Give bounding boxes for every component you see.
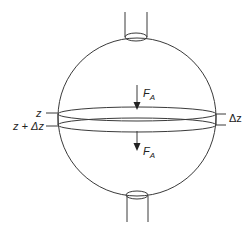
top-pipe xyxy=(125,12,147,41)
force-arrow-top xyxy=(134,85,141,110)
z-plus-dz-label: z + Δz xyxy=(12,120,44,132)
force-label-bottom: FA xyxy=(143,145,155,160)
sphere-outline xyxy=(58,38,216,196)
thickness-bracket xyxy=(216,114,226,125)
slice-disc xyxy=(58,107,216,132)
force-arrow-bottom xyxy=(134,131,141,151)
sphere-diagram: FA FA z z + Δz Δz xyxy=(0,0,252,232)
z-label: z xyxy=(35,107,42,119)
force-label-top: FA xyxy=(143,87,155,102)
thickness-label: Δz xyxy=(229,112,242,124)
